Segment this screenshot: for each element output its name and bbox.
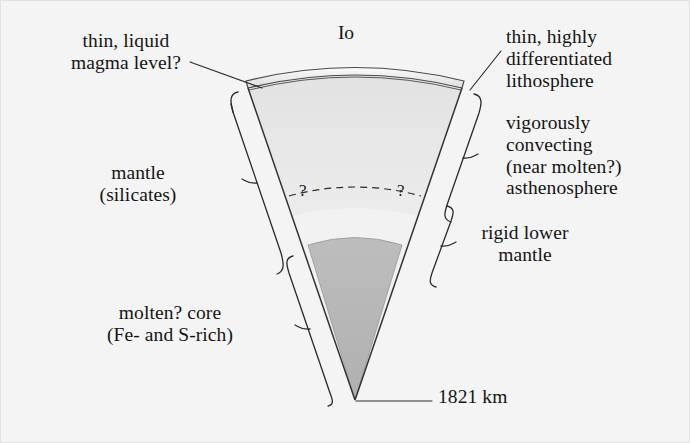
label-rigid-lower-mantle: rigid lower mantle	[440, 222, 610, 266]
core-region	[308, 238, 402, 401]
label-radius: 1821 km	[438, 386, 558, 408]
label-magma-level: thin, liquid magma level?	[36, 30, 216, 74]
label-lithosphere: thin, highly differentiated lithosphere	[506, 26, 684, 91]
wedge-body	[246, 68, 464, 401]
figure-title: Io	[316, 22, 376, 44]
label-core: molten? core (Fe- and S-rich)	[70, 302, 270, 346]
label-mantle: mantle (silicates)	[58, 162, 218, 206]
uncertainty-question-mark-right: ?	[397, 181, 405, 201]
leader-lithosphere	[470, 51, 501, 90]
label-asthenosphere: vigorously convecting (near molten?) ast…	[506, 112, 688, 199]
io-interior-figure: Io thin, liquid magma level? thin, highl…	[0, 0, 690, 443]
uncertainty-question-mark-left: ?	[299, 181, 307, 201]
